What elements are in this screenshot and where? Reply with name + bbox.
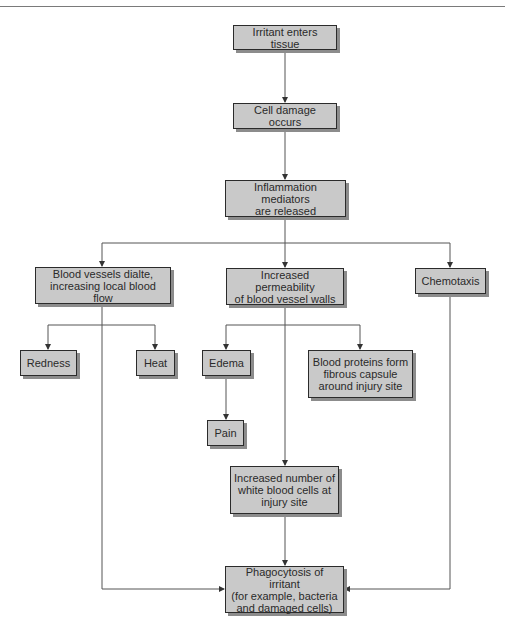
node-cell-damage-occurs: Cell damage occurs — [233, 103, 337, 129]
node-label: Cell damage occurs — [237, 104, 333, 128]
node-blood-vessels-dilate: Blood vessels dialte, increasing local b… — [35, 267, 171, 304]
node-label: Edema — [209, 357, 244, 369]
node-blood-proteins-capsule: Blood proteins form fibrous capsule arou… — [308, 350, 413, 398]
node-label: Pain — [214, 427, 236, 439]
node-label: Blood vessels dialte, increasing local b… — [39, 268, 167, 304]
node-label: Heat — [144, 357, 167, 369]
node-label: Chemotaxis — [421, 275, 479, 287]
node-label: Phagocytosis of irritant (for example, b… — [229, 566, 340, 614]
node-increased-white-blood-cells: Increased number of white blood cells at… — [230, 466, 339, 514]
node-pain: Pain — [207, 420, 244, 446]
node-heat: Heat — [136, 350, 175, 376]
node-label: Blood proteins form fibrous capsule arou… — [313, 356, 408, 392]
node-label: Increased permeability of blood vessel w… — [230, 269, 340, 305]
node-chemotaxis: Chemotaxis — [415, 268, 486, 294]
node-increased-permeability: Increased permeability of blood vessel w… — [226, 268, 344, 305]
node-inflammation-mediators: Inflammation mediators are released — [225, 180, 346, 217]
node-label: Increased number of white blood cells at… — [234, 472, 335, 508]
node-redness: Redness — [20, 350, 77, 376]
node-phagocytosis: Phagocytosis of irritant (for example, b… — [225, 566, 344, 613]
node-edema: Edema — [202, 350, 251, 376]
connector-lines — [0, 0, 505, 636]
node-label: Redness — [27, 357, 70, 369]
node-label: Inflammation mediators are released — [229, 181, 342, 217]
node-irritant-enters-tissue: Irritant enters tissue — [233, 25, 337, 50]
node-label: Irritant enters tissue — [237, 26, 333, 50]
